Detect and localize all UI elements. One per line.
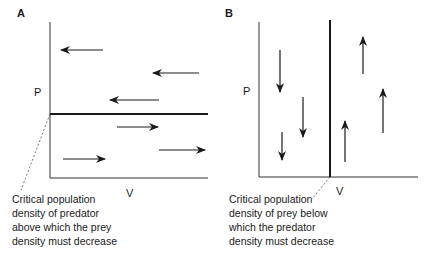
panel-b-x-label: V	[336, 185, 344, 197]
panel-a-x-label: V	[126, 187, 134, 199]
panel-a-label: A	[17, 7, 25, 19]
panel-b-y-label: P	[243, 85, 250, 97]
predator-prey-diagram: A P V Critical population density of pre…	[0, 0, 428, 256]
panel-b: B P V Critical population density of pre…	[225, 7, 418, 247]
panel-a-annotation: Critical population density of predator …	[12, 193, 117, 247]
panel-a: A P V Critical population density of pre…	[12, 7, 208, 247]
panel-a-y-label: P	[34, 86, 41, 98]
panel-b-label: B	[225, 7, 233, 19]
panel-a-leader-line	[21, 114, 50, 190]
panel-b-annotation: Critical population density of prey belo…	[228, 193, 334, 247]
